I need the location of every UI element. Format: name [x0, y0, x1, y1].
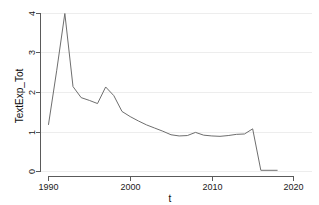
- x-tick-label-2000: 2000: [120, 182, 140, 192]
- x-tick-label-1990: 1990: [38, 182, 58, 192]
- y-tick-label-3: 3: [27, 50, 37, 55]
- x-tick-label-2020: 2020: [283, 182, 303, 192]
- chart-figure: 4 3 2 1 0 TextExp_Tot 1990 2000 2010 202…: [0, 0, 319, 205]
- x-axis-title: t: [169, 193, 172, 204]
- x-tick-label-2010: 2010: [202, 182, 222, 192]
- y-tick-label-2: 2: [27, 90, 37, 95]
- y-tick-label-1: 1: [27, 130, 37, 135]
- chart-background: [0, 0, 319, 205]
- y-axis-title: TextExp_Tot: [14, 69, 25, 124]
- line-chart-plot: 4 3 2 1 0 TextExp_Tot 1990 2000 2010 202…: [0, 0, 319, 205]
- y-tick-label-4: 4: [27, 11, 37, 16]
- y-tick-label-0: 0: [27, 169, 37, 174]
